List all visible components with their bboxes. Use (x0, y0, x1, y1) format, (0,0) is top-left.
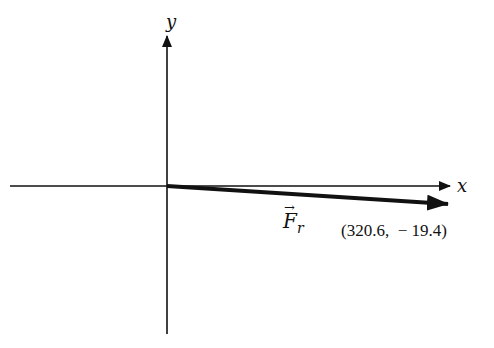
y-axis-label: y (165, 11, 177, 32)
resultant-vector-arrow (167, 186, 448, 204)
vector-coordinate-label: (320.6, − 19.4) (341, 221, 447, 240)
vector-label-main: F (282, 209, 298, 233)
vector-label-subscript: r (297, 220, 305, 236)
vector-diagram: y x → F r (320.6, − 19.4) (0, 0, 494, 348)
x-axis-label: x (457, 175, 467, 196)
